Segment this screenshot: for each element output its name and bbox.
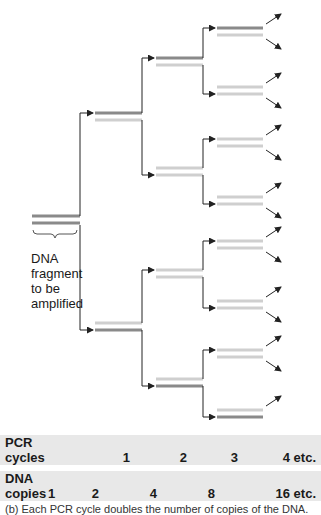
fragment-label: DNA fragment to be amplified [31, 251, 83, 311]
pcr-cycles-label-2: cycles [5, 450, 45, 465]
cycle-value: 2 [180, 450, 187, 465]
cycle-1-products [95, 113, 142, 330]
pcr-cycles-row: PCR cycles 1 2 3 4 etc. [0, 435, 321, 465]
cycle-3-branch [203, 28, 215, 417]
cycle-value: 1 [123, 450, 130, 465]
copies-value: 8 [208, 486, 215, 501]
original-dna-fragment [32, 216, 80, 238]
fragment-label-line: fragment [31, 266, 83, 281]
copies-value: 1 [48, 486, 55, 501]
pcr-cycles-label: PCR [5, 435, 32, 450]
fragment-label-line: amplified [31, 296, 83, 311]
cycle-2-products [156, 58, 203, 386]
cycle-value: 4 etc. [283, 450, 316, 465]
cycle-2-branch [142, 58, 154, 386]
copies-value: 16 etc. [276, 486, 316, 501]
cycle-value: 3 [231, 450, 238, 465]
figure-caption: (b) Each PCR cycle doubles the number of… [5, 503, 308, 515]
pcr-tree-diagram [0, 0, 321, 420]
cycle-3-products [217, 28, 263, 417]
dna-copies-row: DNA copies 1 2 4 8 16 etc. [0, 471, 321, 501]
copies-value: 2 [92, 486, 99, 501]
dna-copies-label: DNA [5, 471, 33, 486]
dna-copies-label-2: copies [5, 486, 46, 501]
fragment-label-line: DNA [31, 251, 83, 266]
fragment-label-line: to be [31, 281, 83, 296]
copies-value: 4 [150, 486, 157, 501]
cycle-4-arrows [266, 14, 281, 420]
